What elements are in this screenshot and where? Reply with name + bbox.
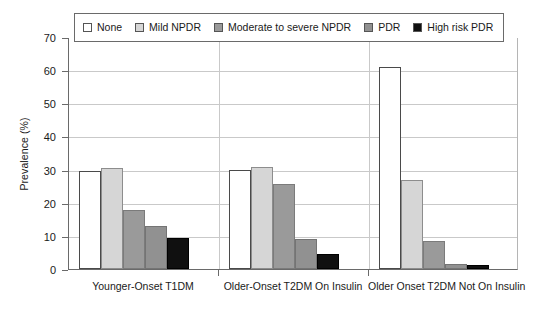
legend-item-label: High risk PDR bbox=[427, 22, 493, 33]
legend-swatch-icon bbox=[413, 23, 422, 32]
y-axis-tick-label: 30 bbox=[22, 165, 56, 177]
legend-swatch-icon bbox=[364, 23, 373, 32]
legend-item: High risk PDR bbox=[413, 22, 493, 33]
y-axis-tick-label: 60 bbox=[22, 65, 56, 77]
y-axis-tick-mark bbox=[62, 38, 68, 39]
x-axis-tick-mark bbox=[368, 270, 369, 276]
x-axis-group-label: Older Onset T2DM Not On Insulin bbox=[368, 280, 518, 292]
bar bbox=[273, 184, 295, 269]
legend-swatch-icon bbox=[83, 23, 92, 32]
bar-chart-figure: Prevalence (%) 010203040506070 NoneMild … bbox=[0, 0, 544, 318]
y-axis-tick-mark bbox=[62, 171, 68, 172]
y-axis-tick-label: 20 bbox=[22, 198, 56, 210]
gridline bbox=[69, 71, 517, 72]
y-axis-tick-label: 70 bbox=[22, 32, 56, 44]
plot-area bbox=[68, 38, 518, 270]
y-axis-tick-mark bbox=[62, 204, 68, 205]
x-axis-group-label: Younger-Onset T1DM bbox=[68, 280, 218, 292]
legend-item-label: None bbox=[97, 22, 122, 33]
bar bbox=[317, 254, 339, 269]
legend-item-label: Mild NPDR bbox=[149, 22, 201, 33]
chart-legend: NoneMild NPDRModerate to severe NPDRPDRH… bbox=[74, 13, 504, 42]
y-axis-tick-mark bbox=[62, 104, 68, 105]
x-axis-group-label: Older-Onset T2DM On Insulin bbox=[218, 280, 368, 292]
legend-item: None bbox=[83, 22, 122, 33]
gridline bbox=[69, 137, 517, 138]
legend-item: Mild NPDR bbox=[135, 22, 201, 33]
bar bbox=[445, 264, 467, 269]
legend-item: PDR bbox=[364, 22, 400, 33]
y-axis-tick-mark bbox=[62, 71, 68, 72]
bar bbox=[167, 238, 189, 269]
y-axis-tick-labels: 010203040506070 bbox=[22, 0, 56, 318]
x-axis-tick-mark bbox=[218, 270, 219, 276]
y-axis-tick-label: 10 bbox=[22, 231, 56, 243]
bar bbox=[101, 168, 123, 269]
bar bbox=[379, 67, 401, 269]
y-axis-tick-label: 40 bbox=[22, 131, 56, 143]
bar bbox=[123, 210, 145, 269]
bar bbox=[251, 167, 273, 269]
legend-item-label: Moderate to severe NPDR bbox=[228, 22, 351, 33]
gridline bbox=[69, 104, 517, 105]
y-axis-tick-label: 0 bbox=[22, 264, 56, 276]
y-axis-tick-mark bbox=[62, 137, 68, 138]
gridline bbox=[69, 171, 517, 172]
bar bbox=[145, 226, 167, 269]
y-axis-tick-mark bbox=[62, 237, 68, 238]
group-separator bbox=[369, 38, 370, 269]
bar bbox=[401, 180, 423, 269]
y-axis-tick-mark bbox=[62, 270, 68, 271]
legend-swatch-icon bbox=[214, 23, 223, 32]
legend-item-label: PDR bbox=[378, 22, 400, 33]
legend-swatch-icon bbox=[135, 23, 144, 32]
legend-item: Moderate to severe NPDR bbox=[214, 22, 351, 33]
bar bbox=[467, 265, 489, 269]
bar bbox=[423, 241, 445, 269]
bar bbox=[295, 239, 317, 269]
bar bbox=[229, 170, 251, 269]
y-axis-tick-label: 50 bbox=[22, 98, 56, 110]
group-separator bbox=[219, 38, 220, 269]
bar bbox=[79, 171, 101, 269]
